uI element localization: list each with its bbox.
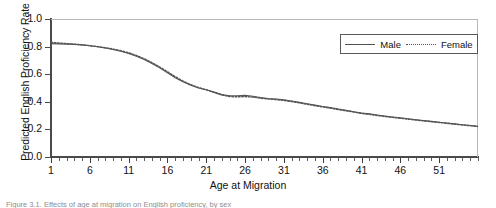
legend-swatch-male [345,44,375,45]
figure-caption: Figure 3.1. Effects of age at migration … [6,200,486,208]
x-tick-minor [136,158,137,161]
legend-swatch-female [406,44,436,45]
x-tick-minor [105,158,106,161]
x-tick-minor [299,158,300,161]
x-tick-label: 41 [350,164,374,176]
x-tick-label: 16 [155,164,179,176]
x-tick-minor [447,158,448,161]
x-tick-minor [346,158,347,161]
x-tick-label: 6 [78,164,102,176]
x-tick-minor [222,158,223,161]
x-tick-label: 21 [194,164,218,176]
x-tick-minor [478,158,479,161]
x-axis-label: Age at Migration [0,179,496,191]
y-tick-label: 0.0 [8,150,42,162]
x-tick-minor [230,158,231,161]
x-tick-minor [183,158,184,161]
x-tick-minor [253,158,254,161]
x-tick-minor [175,158,176,161]
x-tick-minor [152,158,153,161]
x-tick-minor [455,158,456,161]
x-tick-major [362,158,363,163]
x-tick-major [400,158,401,163]
x-tick-minor [292,158,293,161]
y-tick-label: 0.8 [8,40,42,52]
x-tick-major [439,158,440,163]
x-tick-minor [268,158,269,161]
x-tick-minor [214,158,215,161]
line-female [51,42,478,126]
x-tick-major [245,158,246,163]
x-tick-label: 31 [272,164,296,176]
x-tick-minor [377,158,378,161]
x-tick-major [206,158,207,163]
x-tick-minor [261,158,262,161]
x-tick-minor [144,158,145,161]
x-tick-minor [369,158,370,161]
y-axis-label: Predicted English Proficiency Rate [19,2,31,162]
x-tick-major [90,158,91,163]
x-tick-minor [385,158,386,161]
legend-label-male: Male [380,39,401,50]
x-tick-minor [338,158,339,161]
x-tick-minor [237,158,238,161]
x-tick-minor [199,158,200,161]
x-tick-minor [307,158,308,161]
x-tick-major [167,158,168,163]
y-tick-label: 0.4 [8,95,42,107]
x-tick-minor [315,158,316,161]
x-tick-minor [470,158,471,161]
x-tick-minor [431,158,432,161]
x-tick-label: 11 [117,164,141,176]
x-tick-minor [462,158,463,161]
x-tick-minor [160,158,161,161]
figure-container: Predicted English Proficiency Rate 1.00.… [0,0,496,208]
x-tick-label: 26 [233,164,257,176]
y-tick-label: 0.6 [8,67,42,79]
x-tick-minor [330,158,331,161]
x-tick-major [129,158,130,163]
x-tick-minor [424,158,425,161]
x-tick-label: 46 [388,164,412,176]
legend-label-female: Female [441,39,473,50]
x-tick-minor [191,158,192,161]
line-male [51,44,478,127]
x-tick-major [323,158,324,163]
x-tick-major [51,158,52,163]
x-tick-major [284,158,285,163]
x-tick-minor [82,158,83,161]
x-tick-minor [59,158,60,161]
legend: Male Female [340,34,478,54]
y-tick-label: 0.2 [8,122,42,134]
x-tick-minor [408,158,409,161]
y-tick-label: 1.0 [8,12,42,24]
x-tick-minor [113,158,114,161]
x-tick-minor [416,158,417,161]
x-tick-label: 36 [311,164,335,176]
x-tick-minor [354,158,355,161]
x-tick-minor [121,158,122,161]
x-tick-minor [276,158,277,161]
x-tick-minor [67,158,68,161]
x-tick-minor [393,158,394,161]
x-tick-minor [98,158,99,161]
x-tick-minor [74,158,75,161]
x-tick-label: 1 [39,164,63,176]
x-tick-label: 51 [427,164,451,176]
